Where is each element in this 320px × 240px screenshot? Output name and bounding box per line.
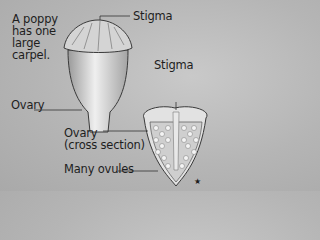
label-ovules: Many ovules (64, 163, 134, 175)
label-ovary-cross: Ovary (cross section) (64, 127, 145, 151)
star-icon: ★ (194, 176, 201, 188)
ovary-cross-line: (cross section) (64, 139, 145, 151)
label-stigma-right: Stigma (154, 59, 193, 71)
intro-text: A poppy has one large carpel. (12, 13, 58, 61)
whole-carpel (64, 20, 132, 132)
label-ovary: Ovary (11, 99, 44, 111)
label-stigma-top: Stigma (133, 10, 172, 22)
intro-line: carpel. (12, 49, 58, 61)
cross-section-carpel (143, 107, 207, 186)
